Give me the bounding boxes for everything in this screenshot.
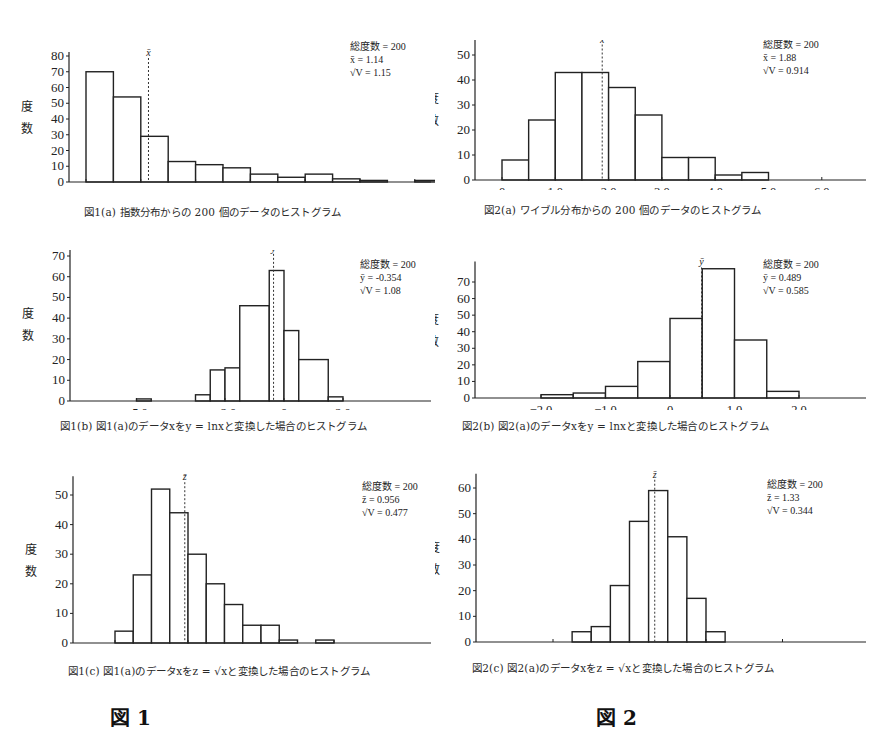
x-tick-label: 1.0 (727, 403, 743, 410)
histogram-svg: 010203040506070度数−5.0−2.002.0ȳ総度数 = 200ȳ… (0, 250, 435, 410)
caption-2b: 図2(b) 図2(a)のデータxをy = lnxと変換した場合のヒストグラム (462, 418, 769, 433)
x-tick-label: −2.0 (530, 403, 553, 410)
histogram-bar (196, 395, 211, 401)
y-tick-label: 50 (457, 47, 470, 62)
y-tick-label: 10 (457, 373, 470, 388)
y-tick-label: 60 (458, 480, 471, 495)
x-tick-label: 3.0 (775, 647, 791, 650)
histogram-bar (668, 537, 687, 642)
y-tick-label: 10 (51, 158, 64, 173)
histogram-bar (278, 177, 305, 182)
caption-1b: 図1(b) 図1(a)のデータxをy = lnxと変換した場合のヒストグラム (60, 418, 367, 433)
y-tick-label: 30 (51, 127, 64, 142)
x-tick-label: 0 (281, 406, 287, 410)
y-tick-label: 20 (457, 357, 470, 372)
x-tick-label: 1.0 (180, 648, 196, 650)
stats-line: z̄ = 0.956 (362, 494, 400, 505)
figure-2-label: 図 2 (596, 702, 637, 731)
histogram-bar (133, 575, 151, 643)
histogram-bar (225, 605, 243, 643)
x-tick-label: 0 (499, 185, 505, 190)
y-tick-label: 50 (457, 307, 470, 322)
x-tick-label: −5.0 (125, 406, 148, 410)
stats-line: √V = 1.15 (350, 67, 391, 78)
mean-symbol: ȳ (698, 256, 704, 267)
stats-line: 総度数 = 200 (763, 258, 819, 270)
stats-line: √V = 0.477 (362, 507, 408, 518)
stats-line: 総度数 = 200 (362, 480, 418, 492)
y-axis-label-char: 数 (21, 121, 33, 136)
y-axis-label-char: 数 (25, 564, 37, 579)
histogram-bar (582, 73, 609, 181)
stats-line: x̄ = 1.88 (763, 52, 796, 63)
histogram-bar (610, 586, 629, 642)
histogram-bar (188, 554, 206, 643)
y-tick-label: 30 (457, 97, 470, 112)
histogram-svg: 01020304050度数01.02.03.04.05.06.0x̄総度数 = … (435, 40, 870, 190)
y-tick-label: 40 (457, 324, 470, 339)
histogram-bar (86, 72, 113, 182)
y-tick-label: 10 (52, 372, 65, 387)
histogram-svg: 01020304050607080度数01.02.03.04.05.06.0x̄… (0, 40, 435, 190)
x-tick-label: 1.0 (133, 187, 149, 190)
histogram-bar (573, 393, 605, 398)
x-tick-label: 2.0 (698, 647, 714, 650)
stats-line: √V = 1.08 (360, 285, 401, 296)
y-tick-label: 20 (51, 143, 64, 158)
y-tick-label: 0 (464, 172, 471, 187)
x-tick-label: 0 (112, 648, 118, 650)
y-tick-label: 10 (458, 608, 471, 623)
y-tick-label: 40 (52, 310, 65, 325)
histogram-bar (168, 162, 195, 182)
histogram-bar (715, 175, 742, 180)
histogram-bar (305, 174, 332, 182)
y-tick-label: 30 (457, 340, 470, 355)
y-tick-label: 10 (457, 147, 470, 162)
stats-line: √V = 0.585 (763, 285, 809, 296)
histogram-bar (742, 173, 769, 181)
x-tick-label: 2.0 (188, 187, 204, 190)
y-tick-label: 10 (55, 605, 68, 620)
caption-2c: 図2(c) 図2(a)のデータxをz = √xと変換した場合のヒストグラム (472, 660, 774, 675)
y-axis-label-char: 度 (25, 542, 37, 557)
histogram-bar (250, 174, 277, 182)
y-tick-label: 40 (55, 517, 68, 532)
caption-2a: 図2(a) ワイブル分布からの 200 個のデータのヒストグラム (484, 202, 762, 217)
histogram-bar (662, 158, 689, 181)
y-tick-label: 70 (52, 250, 65, 263)
histogram-bar (196, 165, 223, 182)
histogram-bar (328, 397, 343, 401)
histogram-2a: 01020304050度数01.02.03.04.05.06.0x̄総度数 = … (435, 40, 870, 190)
y-tick-label: 60 (51, 80, 64, 95)
y-tick-label: 30 (458, 557, 471, 572)
mean-symbol: x̄ (145, 47, 151, 58)
x-tick-label: 0 (667, 403, 673, 410)
histogram-bar (606, 386, 638, 398)
y-tick-label: 40 (51, 111, 64, 126)
histogram-bar (502, 160, 529, 180)
y-tick-label: 20 (52, 352, 65, 367)
histogram-bar (591, 627, 610, 642)
histogram-bar (706, 632, 725, 642)
histogram-bar (299, 360, 329, 401)
stats-line: √V = 0.344 (767, 505, 813, 516)
x-tick-label: 2.0 (253, 648, 269, 650)
x-tick-label: 2.0 (601, 185, 617, 190)
histogram-1b: 010203040506070度数−5.0−2.002.0ȳ総度数 = 200ȳ… (0, 250, 435, 410)
histogram-bar (767, 391, 799, 398)
y-tick-label: 70 (457, 274, 470, 289)
histogram-bar (284, 331, 299, 401)
y-tick-label: 50 (55, 487, 68, 502)
figure-1-label: 図 1 (110, 702, 151, 731)
histogram-svg: 01020304050度数01.02.03.0z̄総度数 = 200z̄ = 0… (0, 460, 435, 650)
x-tick-label: 3.0 (243, 187, 259, 190)
histogram-bar (206, 584, 224, 643)
y-tick-label: 60 (52, 269, 65, 284)
y-tick-label: 20 (458, 583, 471, 598)
caption-1a: 図1(a) 指数分布からの 200 個のデータのヒストグラム (84, 204, 341, 219)
histogram-bar (141, 136, 168, 182)
histogram-bar (223, 168, 250, 182)
y-axis-label-char: 数 (22, 328, 34, 343)
mean-symbol: x̄ (599, 40, 605, 45)
histogram-bar (152, 489, 170, 643)
